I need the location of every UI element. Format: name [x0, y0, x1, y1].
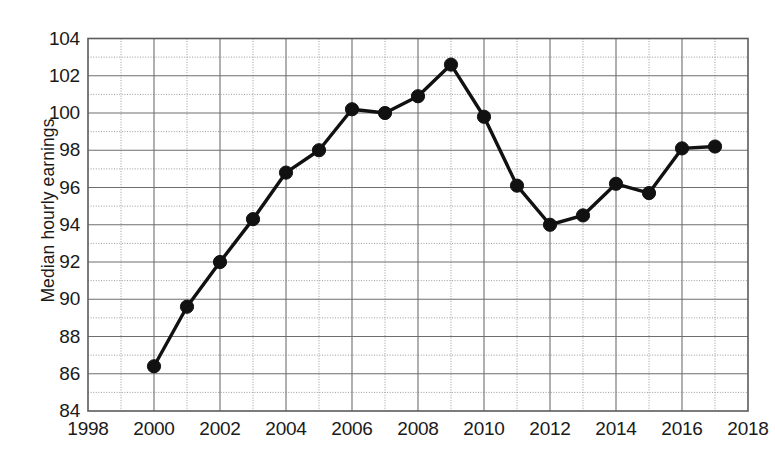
data-point-marker [444, 58, 457, 71]
x-axis-tick-label: 1998 [53, 418, 123, 440]
data-point-marker [345, 103, 358, 116]
x-axis-tick-label: 2018 [713, 418, 775, 440]
data-point-marker [576, 209, 589, 222]
data-point-marker [543, 218, 556, 231]
x-axis-tick-label: 2006 [317, 418, 387, 440]
x-axis-tick-label: 2016 [647, 418, 717, 440]
data-point-marker [675, 142, 688, 155]
x-axis-tick-label: 2008 [383, 418, 453, 440]
line-chart: Median hourly earnings 84868890929496981… [0, 0, 775, 460]
series-line-0 [154, 65, 715, 367]
data-point-marker [246, 213, 259, 226]
x-axis-tick-label: 2002 [185, 418, 255, 440]
data-point-marker [147, 360, 160, 373]
data-point-marker [708, 140, 721, 153]
data-point-marker [180, 300, 193, 313]
data-point-marker [609, 177, 622, 190]
data-point-marker [378, 106, 391, 119]
data-point-marker [477, 110, 490, 123]
x-axis-tick-label: 2010 [449, 418, 519, 440]
x-axis-tick-label: 2012 [515, 418, 585, 440]
data-point-marker [510, 179, 523, 192]
plot-area [0, 0, 775, 460]
data-point-marker [312, 144, 325, 157]
x-axis-tick-label: 2004 [251, 418, 321, 440]
x-axis-tick-label: 2000 [119, 418, 189, 440]
data-point-marker [411, 90, 424, 103]
data-point-marker [213, 255, 226, 268]
data-point-marker [279, 166, 292, 179]
x-axis-tick-label: 2014 [581, 418, 651, 440]
data-point-marker [642, 186, 655, 199]
